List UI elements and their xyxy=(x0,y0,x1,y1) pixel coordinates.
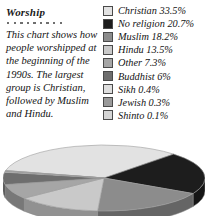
divider-dot-icon xyxy=(20,22,22,24)
legend-color-swatch xyxy=(103,58,113,68)
legend-item-label: Muslim 18.2% xyxy=(118,31,178,42)
legend-color-swatch xyxy=(103,32,113,42)
legend-item-label: Christian 33.5% xyxy=(118,5,186,16)
legend-color-swatch xyxy=(103,110,113,120)
legend-item-label: No religion 20.7% xyxy=(118,18,194,29)
divider-dot-icon xyxy=(7,22,9,24)
legend-item[interactable]: No religion 20.7% xyxy=(103,17,207,30)
legend-item[interactable]: Other 7.3% xyxy=(103,56,207,69)
article-body-text: This chart shows how people worshipped a… xyxy=(6,28,100,120)
legend-item[interactable]: Jewish 0.3% xyxy=(103,96,207,109)
pie-chart-top-face xyxy=(3,145,205,211)
pie-chart xyxy=(0,140,208,216)
legend-item-label: Sikh 0.4% xyxy=(118,84,160,95)
legend-color-swatch xyxy=(103,71,113,81)
divider-dot-icon xyxy=(53,22,55,24)
pie-chart-svg xyxy=(3,140,205,216)
article-text-column: Worship This chart shows how people wors… xyxy=(4,6,100,120)
legend-item[interactable]: Muslim 18.2% xyxy=(103,30,207,43)
legend-item-label: Hindu 13.5% xyxy=(118,44,173,55)
legend-item-label: Shinto 0.1% xyxy=(118,110,168,121)
legend-item[interactable]: Sikh 0.4% xyxy=(103,83,207,96)
legend-color-swatch xyxy=(103,6,113,16)
divider-dot-icon xyxy=(60,22,62,24)
divider-dot-icon xyxy=(46,22,48,24)
page-title: Worship xyxy=(6,6,100,19)
legend-item[interactable]: Christian 33.5% xyxy=(103,4,207,17)
legend-item[interactable]: Buddhist 6% xyxy=(103,69,207,82)
legend-item-label: Buddhist 6% xyxy=(118,71,171,82)
divider-dot-icon xyxy=(40,22,42,24)
divider-dot-icon xyxy=(33,22,35,24)
divider-dot-icon xyxy=(27,22,29,24)
legend-item-label: Jewish 0.3% xyxy=(118,97,170,108)
legend-color-swatch xyxy=(103,84,113,94)
chart-legend: Christian 33.5%No religion 20.7%Muslim 1… xyxy=(103,4,207,122)
legend-color-swatch xyxy=(103,97,113,107)
legend-color-swatch xyxy=(103,19,113,29)
worship-infographic: Worship This chart shows how people wors… xyxy=(0,0,208,216)
divider-dot-icon xyxy=(14,22,16,24)
legend-item[interactable]: Hindu 13.5% xyxy=(103,43,207,56)
legend-item[interactable]: Shinto 0.1% xyxy=(103,109,207,122)
decorative-dot-divider xyxy=(7,21,100,25)
legend-color-swatch xyxy=(103,45,113,55)
legend-item-label: Other 7.3% xyxy=(118,57,166,68)
